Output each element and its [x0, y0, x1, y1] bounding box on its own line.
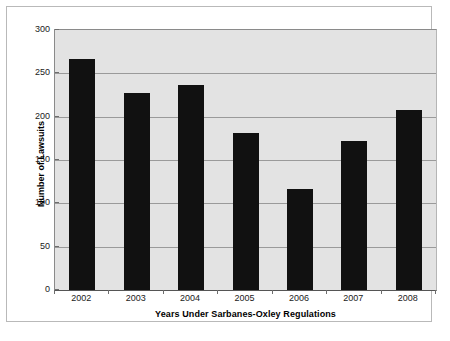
- bar-2008: [396, 110, 422, 290]
- x-tick-mark: [326, 290, 327, 294]
- y-tick-mark: [55, 29, 59, 30]
- chart-outer-frame: 050100150200250300 Number of Lawsuits 20…: [6, 6, 432, 322]
- plot-area: [54, 29, 437, 291]
- y-tick-mark: [55, 116, 59, 117]
- gridline: [55, 117, 436, 118]
- y-axis-title: Number of Lawsuits: [36, 94, 46, 234]
- x-tick-label-2008: 2008: [386, 293, 430, 304]
- bar-2006: [287, 189, 313, 290]
- bar-2005: [233, 133, 259, 290]
- x-tick-mark: [381, 290, 382, 294]
- bar-2004: [178, 85, 204, 290]
- x-tick-mark: [108, 290, 109, 294]
- y-tick-mark: [55, 72, 59, 73]
- x-tick-label-2006: 2006: [277, 293, 321, 304]
- y-tick-mark: [55, 202, 59, 203]
- bar-2007: [341, 141, 367, 290]
- x-axis-title: Years Under Sarbanes-Oxley Regulations: [54, 309, 437, 319]
- x-tick-mark: [272, 290, 273, 294]
- bar-chart-figure: 050100150200250300 Number of Lawsuits 20…: [0, 0, 450, 341]
- y-tick-mark: [55, 289, 59, 290]
- bar-2003: [124, 93, 150, 290]
- y-tick-mark: [55, 246, 59, 247]
- x-tick-mark: [217, 290, 218, 294]
- x-axis-tick-labels: 2002200320042005200620072008: [54, 293, 437, 307]
- x-tick-label-2002: 2002: [59, 293, 103, 304]
- x-tick-mark: [54, 290, 55, 294]
- x-tick-mark: [435, 290, 436, 294]
- x-tick-label-2004: 2004: [168, 293, 212, 304]
- bar-2002: [69, 59, 95, 290]
- x-tick-label-2003: 2003: [114, 293, 158, 304]
- y-axis-title-container: Number of Lawsuits: [23, 29, 35, 289]
- x-tick-label-2007: 2007: [331, 293, 375, 304]
- gridline: [55, 73, 436, 74]
- x-tick-mark: [163, 290, 164, 294]
- x-tick-label-2005: 2005: [223, 293, 267, 304]
- y-tick-mark: [55, 159, 59, 160]
